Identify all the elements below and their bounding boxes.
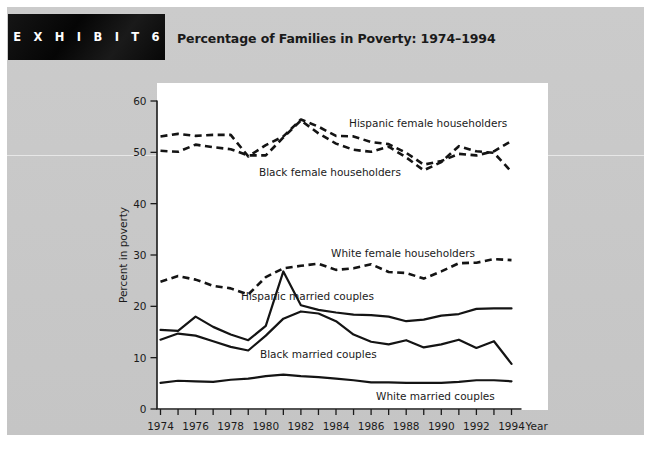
chart-svg: 0102030405060197419761978198019821984198…: [0, 0, 651, 458]
x-tick-label: 1982: [288, 420, 315, 432]
series-line-white-married-couples: [161, 375, 512, 383]
series-annotation-white-female-householders: White female householders: [331, 247, 475, 259]
x-tick-label: 1980: [252, 420, 279, 432]
series-line-hispanic-married-couples: [161, 271, 512, 340]
series-annotation-black-female-householders: Black female householders: [259, 166, 401, 178]
x-tick-label: 1988: [393, 420, 420, 432]
exhibit-page: E X H I B I T 6 Percentage of Families i…: [0, 0, 651, 458]
series-annotation-black-married-couples: Black married couples: [260, 348, 377, 360]
y-tick-label: 20: [133, 300, 146, 312]
series-annotation-hispanic-female-householders: Hispanic female householders: [349, 117, 507, 129]
series-annotation-hispanic-married-couples: Hispanic married couples: [241, 290, 374, 302]
x-axis-title: Year: [525, 420, 549, 432]
x-tick-label: 1986: [358, 420, 385, 432]
y-tick-label: 60: [133, 95, 146, 107]
x-tick-label: 1984: [323, 420, 350, 432]
y-tick-label: 0: [140, 403, 147, 415]
x-tick-label: 1974: [147, 420, 174, 432]
x-tick-label: 1976: [182, 420, 209, 432]
y-tick-label: 10: [133, 352, 146, 364]
x-tick-label: 1994: [498, 420, 525, 432]
series-annotations: Hispanic female householdersBlack female…: [241, 117, 507, 402]
x-tick-label: 1978: [217, 420, 244, 432]
x-tick-label: 1992: [463, 420, 490, 432]
x-tick-label: 1990: [428, 420, 455, 432]
y-axis-title: Percent in poverty: [117, 207, 129, 303]
series-annotation-white-married-couples: White married couples: [376, 390, 495, 402]
y-tick-label: 50: [133, 146, 146, 158]
y-tick-label: 40: [133, 198, 146, 210]
y-tick-label: 30: [133, 249, 146, 261]
